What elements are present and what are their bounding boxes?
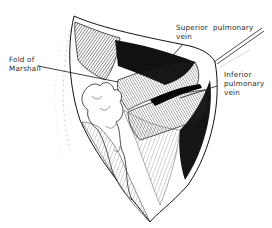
- label-inferior-line2: pulmonary: [224, 79, 264, 88]
- label-superior-line1: Superior pulmonary: [176, 23, 253, 32]
- label-superior-line2: vein: [176, 32, 253, 41]
- label-inferior-pulmonary-vein: Inferior pulmonary vein: [224, 70, 264, 97]
- label-superior-pulmonary-vein: Superior pulmonary vein: [176, 23, 253, 41]
- label-fold-of-marshall-line2: Marshall: [9, 64, 41, 73]
- label-fold-of-marshall-line1: Fold of: [9, 55, 41, 64]
- label-fold-of-marshall: Fold of Marshall: [9, 55, 41, 73]
- label-inferior-line3: vein: [224, 88, 264, 97]
- label-inferior-line1: Inferior: [224, 70, 264, 79]
